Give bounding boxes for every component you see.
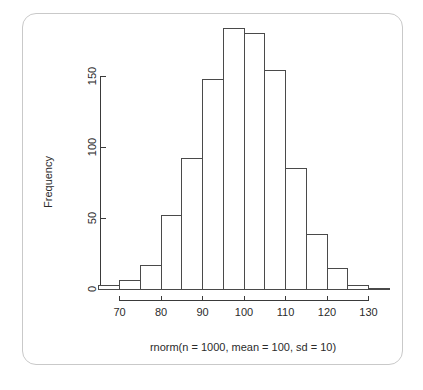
histogram-bar [223,28,244,289]
y-tick-label: 150 [86,67,98,85]
histogram-bar [286,169,307,290]
x-axis-tick-labels: 708090100110120130 [113,306,377,318]
histogram-bar [140,265,161,289]
histogram-bar [265,71,286,290]
x-tick-label: 100 [235,306,253,318]
histogram-bar [203,79,224,289]
histogram-bar [120,281,141,290]
x-tick-label: 80 [155,306,167,318]
y-tick-label: 100 [86,138,98,156]
histogram-plot: 050100150 Frequency 708090100110120130 r… [0,0,423,390]
histogram-bar [327,268,348,289]
x-tick-label: 130 [359,306,377,318]
histogram-bar [182,159,203,290]
y-axis-line [101,76,106,289]
histogram-bar [369,288,390,289]
x-tick-label: 90 [196,306,208,318]
histogram-bar [244,34,265,290]
y-axis-title: Frequency [42,156,54,208]
histogram-bar [306,234,327,289]
x-tick-label: 110 [277,306,295,318]
histogram-bar [348,285,369,289]
y-tick-label: 50 [86,212,98,224]
x-tick-label: 70 [113,306,125,318]
y-axis-ticks [101,77,106,290]
histogram-bar [161,216,182,290]
x-axis-title: rnorm(n = 1000, mean = 100, sd = 10) [150,341,336,353]
x-tick-label: 120 [318,306,336,318]
y-tick-label: 0 [86,286,98,292]
y-axis-tick-labels: 050100150 [86,67,98,292]
histogram-bar [99,285,120,289]
x-axis-ticks [120,296,369,301]
histogram-bars [99,28,390,289]
